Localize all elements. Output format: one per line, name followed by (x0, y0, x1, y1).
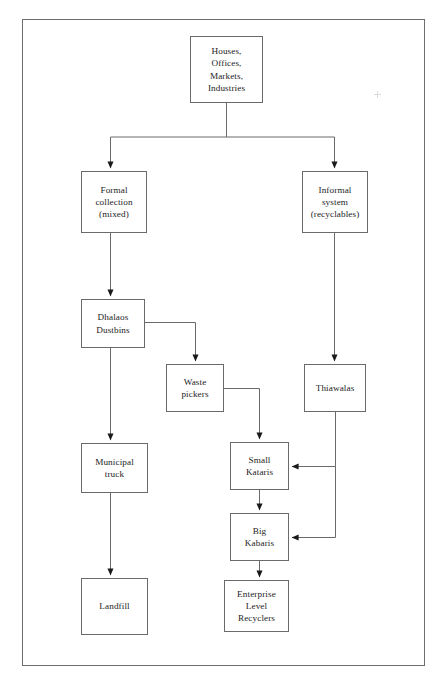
node-thiawalas: Thiawalas (304, 364, 366, 412)
node-sources: Houses, Offices, Markets, Industries (190, 36, 263, 103)
node-dhalaos-dustbins: Dhalaos Dustbins (81, 299, 145, 348)
node-informal-system: Informal system (recyclables) (302, 171, 368, 233)
scan-artifact-mark (374, 91, 381, 98)
node-formal-collection: Formal collection (mixed) (81, 171, 147, 233)
node-municipal-truck: Municipal truck (81, 443, 148, 493)
node-small-kataris: Small Kataris (230, 442, 289, 490)
node-enterprise-level-recyclers: Enterprise Level Recyclers (224, 580, 289, 632)
node-waste-pickers: Waste pickers (166, 364, 224, 412)
node-landfill: Landfill (81, 578, 148, 635)
node-big-kabaris: Big Kabaris (230, 513, 289, 561)
diagram-page: Houses, Offices, Markets, Industries For… (0, 0, 444, 690)
